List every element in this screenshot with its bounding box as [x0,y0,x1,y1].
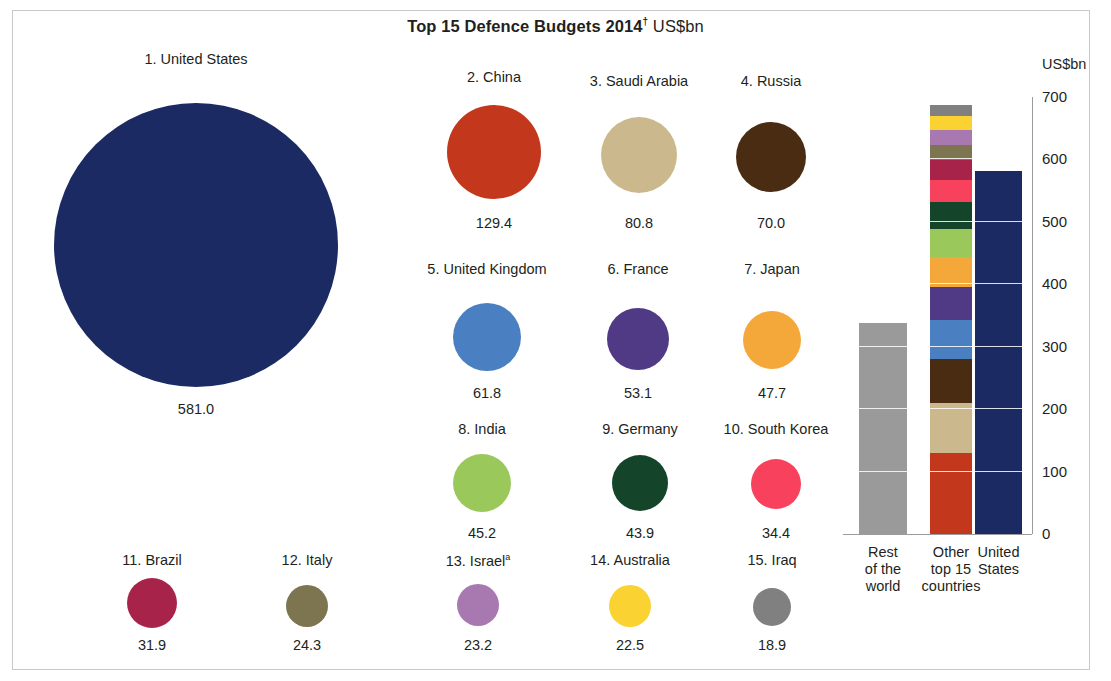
gridline-mark-300 [975,346,1022,347]
gridline-mark-200 [859,408,907,409]
bar-segment-china [930,453,972,534]
gridline-mark-300 [930,346,972,347]
bar-segment-south-korea [930,180,972,202]
y-axis-tick-0: 0 [1042,525,1050,542]
bar-segment-brazil [930,160,972,180]
bar-segment-india [930,229,972,257]
bar-caption-united-states: United States [957,544,1040,578]
gridline-mark-400 [975,283,1022,284]
bar-segment-australia [930,116,972,130]
x-axis-line [843,534,1032,535]
bar-segment-iraq [930,105,972,117]
y-axis-tick-400: 400 [1042,275,1067,292]
bar-segment-france [930,287,972,320]
gridline-mark-200 [930,408,972,409]
bar-united-states [975,171,1022,534]
bar-segment-saudi-arabia [930,403,972,454]
gridline-mark-500 [930,221,972,222]
bar-segment-israel [930,130,972,145]
bar-rest-of-the-world [859,323,907,534]
y-axis-tick-200: 200 [1042,400,1067,417]
stacked-bar-chart: 7006005004003002001000US$bnRest of the w… [0,0,1111,681]
y-axis-unit-label: US$bn [1042,56,1086,72]
y-axis-tick-700: 700 [1042,88,1067,105]
gridline-mark-600 [930,158,972,159]
bar-segment-united-kingdom [930,320,972,359]
gridline-mark-400 [930,283,972,284]
gridline-mark-100 [930,471,972,472]
gridline-mark-100 [975,471,1022,472]
y-axis-tick-600: 600 [1042,150,1067,167]
y-axis-tick-100: 100 [1042,463,1067,480]
bar-other-top-15-countries [930,105,972,534]
bar-segment-germany [930,202,972,229]
y-axis-line [1032,97,1033,534]
gridline-mark-200 [975,408,1022,409]
gridline-mark-100 [859,471,907,472]
y-axis-tick-300: 300 [1042,338,1067,355]
gridline-mark-300 [859,346,907,347]
bar-segment-russia [930,359,972,403]
y-axis-tick-500: 500 [1042,213,1067,230]
gridline-mark-500 [975,221,1022,222]
